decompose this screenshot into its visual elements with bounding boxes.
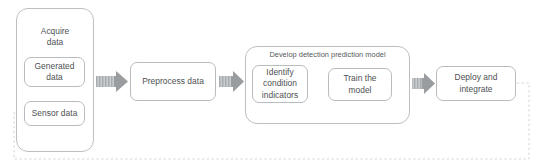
- node-preprocess-data[interactable]: Preprocess data: [130, 62, 216, 101]
- arrow-acquire-to-preprocess: [96, 71, 128, 92]
- node-deploy-and-integrate[interactable]: Deploy and integrate: [436, 66, 516, 101]
- node-generated-data[interactable]: Generated data: [24, 57, 85, 87]
- node-deploy-label-line1: Deploy and: [455, 72, 498, 83]
- node-identify-label-line1: Identify: [262, 67, 298, 78]
- node-sensor-data-label: Sensor data: [32, 108, 78, 119]
- node-identify-label-line3: indicators: [262, 90, 298, 101]
- node-generated-data-label-line1: Generated: [34, 61, 74, 72]
- node-sensor-data[interactable]: Sensor data: [24, 101, 85, 126]
- workflow-diagram: Acquire data Generated data Sensor data …: [0, 0, 538, 168]
- node-identify-condition-indicators[interactable]: Identify condition indicators: [252, 65, 308, 103]
- arrow-develop-to-deploy: [412, 73, 435, 94]
- group-develop-model-title: Develop detection prediction model: [245, 50, 410, 59]
- node-deploy-label-line2: integrate: [455, 84, 498, 95]
- node-train-the-model[interactable]: Train the model: [328, 68, 392, 101]
- arrow-preprocess-to-develop: [219, 71, 244, 92]
- group-acquire-data-title-line2: data: [16, 37, 94, 48]
- node-train-label-line1: Train the: [343, 73, 376, 84]
- node-preprocess-data-label: Preprocess data: [142, 76, 204, 87]
- node-generated-data-label-line2: data: [34, 72, 74, 83]
- node-identify-label-line2: condition: [262, 78, 298, 89]
- group-acquire-data-title: Acquire data: [16, 26, 94, 49]
- group-acquire-data-title-line1: Acquire: [16, 26, 94, 37]
- node-train-label-line2: model: [343, 85, 376, 96]
